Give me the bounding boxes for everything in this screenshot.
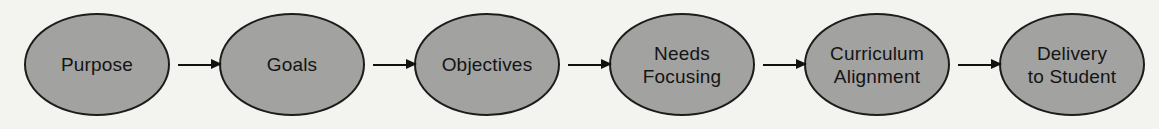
node-delivery-to-student: Delivery to Student [999,13,1145,116]
right-arrow-icon [373,64,407,66]
connector-needs-focusing-curriculum-alignment [755,13,804,116]
right-arrow-icon [763,64,797,66]
node-needs-focusing: Needs Focusing [609,13,755,116]
node-purpose: Purpose [24,13,170,116]
connector-purpose-goals [170,13,219,116]
right-arrow-icon [178,64,212,66]
right-arrow-icon [568,64,602,66]
right-arrow-icon [958,64,992,66]
node-curriculum-alignment: Curriculum Alignment [804,13,950,116]
node-goals: Goals [219,13,365,116]
connector-curriculum-alignment-delivery [950,13,999,116]
node-objectives: Objectives [414,13,560,116]
node-goals-label: Goals [267,53,318,76]
connector-goals-objectives [365,13,414,116]
node-delivery-to-student-label: Delivery to Student [1028,42,1117,88]
process-flowchart: Purpose Goals Objectives Needs Focusing … [0,0,1159,129]
node-purpose-label: Purpose [61,53,133,76]
connector-objectives-needs-focusing [560,13,609,116]
node-curriculum-alignment-label: Curriculum Alignment [830,42,924,88]
node-needs-focusing-label: Needs Focusing [643,42,722,88]
node-objectives-label: Objectives [442,53,533,76]
